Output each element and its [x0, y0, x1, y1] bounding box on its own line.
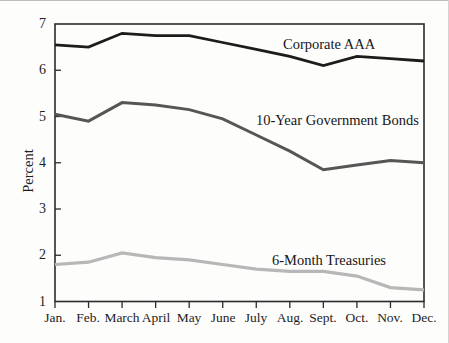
series-label-10-year-government-bonds: 10-Year Government Bonds — [256, 112, 419, 128]
chart-figure: Percent 7 6 5 4 3 2 1 Jan. Feb. March Ap… — [0, 0, 449, 343]
y-tick-label-1: 1 — [26, 294, 46, 310]
y-tick-label-4: 4 — [26, 155, 46, 171]
x-tick-label-dec: Dec. — [402, 310, 446, 326]
y-tick-label-3: 3 — [26, 201, 46, 217]
y-tick-label-5: 5 — [26, 109, 46, 125]
series-label-6-month-treasuries: 6-Month Treasuries — [272, 252, 386, 268]
plot-canvas — [0, 0, 449, 343]
y-tick-label-2: 2 — [26, 247, 46, 263]
y-tick-label-6: 6 — [26, 62, 46, 78]
y-tick-label-7: 7 — [26, 16, 46, 32]
y-axis-title: Percent — [20, 131, 36, 211]
series-label-corporate-aaa: Corporate AAA — [283, 36, 375, 52]
